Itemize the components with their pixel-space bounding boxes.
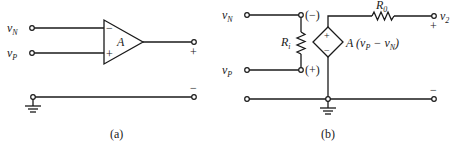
figure-b: vN (−) vP (+) Ri + − A (vP − vN) R0 v2 — [222, 0, 449, 141]
vp-terminal-b — [245, 68, 250, 73]
vn-terminal-b — [245, 13, 250, 18]
figure-a: vN vP − + A + − (a) — [7, 20, 197, 141]
output-resistor — [372, 12, 432, 20]
vp-label-a: vP — [7, 46, 17, 62]
ground-icon-a — [25, 99, 41, 112]
ground-terminal-left-a — [31, 95, 36, 100]
bottom-left-terminal-b — [245, 97, 250, 102]
output-terminal-b — [432, 14, 437, 19]
op-amp-gain-label: A — [116, 35, 125, 49]
vn-terminal-a — [30, 26, 35, 31]
output-terminal-a — [192, 40, 197, 45]
op-amp-plus-sign: + — [106, 47, 113, 61]
ground-icon-b — [320, 101, 336, 114]
node-plus-label: (+) — [305, 63, 320, 77]
node-minus-label: (−) — [305, 8, 320, 22]
input-resistor — [297, 18, 305, 68]
op-amp-minus-sign: − — [106, 21, 113, 35]
output-minus-terminal-b — [432, 97, 437, 102]
source-plus-sign: + — [324, 30, 330, 41]
output-minus-sign-a: − — [190, 81, 197, 95]
ground-node-b — [326, 97, 331, 102]
output-minus-terminal-a — [192, 95, 197, 100]
output-plus-sign-b: + — [430, 19, 437, 33]
vn-label-b: vN — [222, 8, 233, 24]
vp-terminal-a — [30, 51, 35, 56]
vn-label-a: vN — [7, 21, 18, 37]
caption-b: (b) — [321, 127, 335, 141]
node-plus — [299, 68, 304, 73]
circuit-diagram: vN vP − + A + − (a) vN — [0, 0, 462, 149]
op-amp-model-figure: vN vP − + A + − (a) vN — [0, 0, 462, 149]
node-minus — [299, 13, 304, 18]
output-minus-sign-b: − — [430, 83, 437, 97]
ri-label: Ri — [280, 35, 291, 51]
source-top-wire — [328, 16, 372, 27]
caption-a: (a) — [110, 127, 123, 141]
source-expression: A (vP − vN) — [345, 36, 399, 52]
vp-label-b: vP — [222, 63, 232, 79]
source-minus-sign: − — [324, 45, 330, 56]
v2-label: v2 — [440, 9, 449, 25]
output-plus-sign-a: + — [190, 45, 197, 59]
r0-label: R0 — [375, 0, 387, 14]
